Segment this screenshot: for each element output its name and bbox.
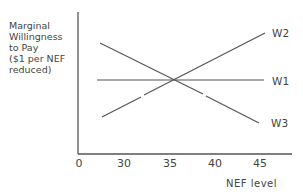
series-label-w2: W2 [272, 27, 289, 39]
series-w2-line [102, 97, 141, 117]
series-w3-line-2 [206, 96, 259, 123]
x-tick-35: 35 [163, 157, 177, 170]
x-axis-label: NEF level [226, 178, 277, 189]
series-label-w3: W3 [271, 117, 288, 129]
x-tick-40: 40 [208, 157, 222, 170]
x-tick-30: 30 [117, 157, 131, 170]
x-tick-45: 45 [253, 157, 267, 170]
series-w2-line-2 [144, 33, 265, 95]
series-label-w1: W1 [272, 75, 289, 87]
x-tick-0: 0 [76, 157, 83, 170]
series-w3-line [100, 43, 203, 94]
